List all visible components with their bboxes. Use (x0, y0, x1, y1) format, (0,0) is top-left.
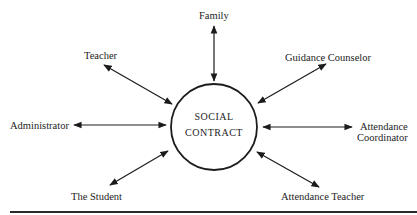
center-label-line2: CONTRACT (170, 126, 258, 140)
center-label-line1: SOCIAL (170, 110, 258, 124)
node-attendance-coordinator-line2: Coordinator (357, 132, 408, 143)
arrow-attendance-teacher (257, 152, 319, 187)
arrow-the-student (110, 151, 168, 185)
diagram-canvas (0, 0, 417, 215)
node-attendance-teacher: Attendance Teacher (281, 191, 364, 202)
social-contract-diagram: SOCIAL CONTRACT Family Teacher Guidance … (0, 0, 417, 215)
node-family: Family (199, 10, 229, 21)
arrow-teacher (104, 65, 172, 104)
node-teacher: Teacher (84, 50, 117, 61)
node-the-student: The Student (71, 191, 122, 202)
node-attendance-coordinator: Attendance Coordinator (357, 121, 408, 143)
arrow-guidance-counselor (258, 64, 326, 103)
node-attendance-coordinator-line1: Attendance (357, 121, 408, 132)
node-administrator: Administrator (10, 120, 69, 131)
bottom-rule (10, 211, 417, 213)
center-label: SOCIAL CONTRACT (170, 110, 258, 140)
node-guidance-counselor: Guidance Counselor (285, 52, 371, 63)
